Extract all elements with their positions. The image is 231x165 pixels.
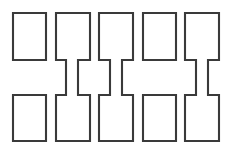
shape-unit-5 — [185, 13, 219, 141]
connected-dumbbell-shape-3 — [99, 13, 133, 141]
shape-diagram — [0, 0, 231, 165]
top-rectangle-4 — [143, 13, 176, 60]
connected-dumbbell-shape-2 — [56, 13, 90, 141]
diagram-canvas — [0, 0, 231, 165]
shape-unit-1 — [13, 13, 46, 141]
shape-unit-3 — [99, 13, 133, 141]
top-rectangle-1 — [13, 13, 46, 60]
shape-unit-2 — [56, 13, 90, 141]
shape-unit-4 — [143, 13, 176, 141]
bottom-rectangle-1 — [13, 95, 46, 141]
bottom-rectangle-4 — [143, 95, 176, 141]
connected-dumbbell-shape-5 — [185, 13, 219, 141]
